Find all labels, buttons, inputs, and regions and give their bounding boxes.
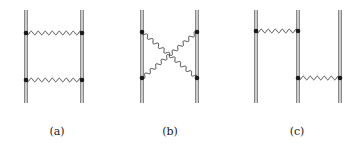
diagram-panel-c <box>254 10 343 103</box>
vertex-dot <box>80 31 85 36</box>
panel-label-a: (a) <box>49 125 64 138</box>
vertex-dot <box>140 30 145 35</box>
vertex-dot <box>338 76 343 81</box>
photon-exchange-line <box>256 29 298 33</box>
panel-label-b: (b) <box>162 125 178 138</box>
diagram-panel-b <box>140 10 200 103</box>
vertex-dot <box>195 76 200 81</box>
photon-exchange-line <box>298 76 340 80</box>
vertex-dot <box>195 30 200 35</box>
photon-exchange-line <box>26 31 82 35</box>
vertex-dot <box>296 29 301 34</box>
vertex-dot <box>140 76 145 81</box>
photon-exchange-line <box>26 78 82 82</box>
vertex-dot <box>24 78 29 83</box>
vertex-dot <box>24 31 29 36</box>
vertex-dot <box>254 29 259 34</box>
diagram-panel-a <box>24 10 85 103</box>
vertex-dot <box>296 76 301 81</box>
panel-label-c: (c) <box>290 125 305 138</box>
vertex-dot <box>80 78 85 83</box>
